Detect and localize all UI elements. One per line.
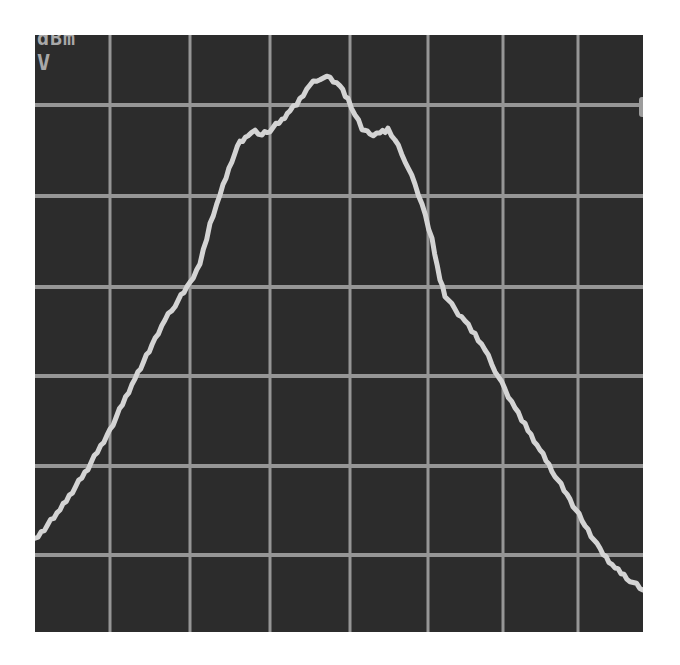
unit-label-dbm: dBm xyxy=(37,35,76,50)
signal-trace xyxy=(35,76,643,590)
unit-label-v: V xyxy=(37,50,51,75)
waveform-plot xyxy=(35,35,643,632)
analyzer-screen: dBm V xyxy=(35,35,643,632)
reference-level-marker xyxy=(639,97,643,117)
